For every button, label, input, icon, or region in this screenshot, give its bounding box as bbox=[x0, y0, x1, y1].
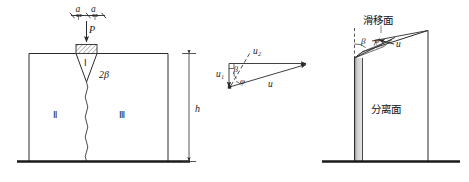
label-velocity-u-right: u bbox=[396, 39, 401, 49]
label-region-III: Ⅲ bbox=[119, 110, 125, 120]
label-u1: u₁ bbox=[216, 69, 224, 79]
dimension-h-group bbox=[182, 54, 196, 162]
figure-root: a a P Ⅰ 2β Ⅱ Ⅲ h u₁ u₂ u β φ 滑移面 分离面 β φ… bbox=[0, 0, 469, 182]
label-beta-right: β bbox=[360, 36, 366, 46]
label-height-h: h bbox=[195, 103, 200, 114]
label-beta-middle: β bbox=[233, 64, 239, 74]
left-panel-group bbox=[17, 13, 196, 162]
label-slip-surface: 滑移面 bbox=[363, 14, 393, 26]
label-phi-right: φ bbox=[375, 35, 380, 45]
label-u2: u₂ bbox=[253, 46, 262, 56]
separation-band bbox=[355, 58, 363, 162]
label-a-right: a bbox=[91, 4, 96, 14]
label-separation-surface: 分离面 bbox=[371, 103, 401, 115]
label-phi-middle: φ bbox=[240, 76, 245, 86]
label-u: u bbox=[268, 79, 273, 89]
label-load-P: P bbox=[88, 24, 95, 35]
punch-block bbox=[76, 45, 97, 54]
label-angle-2beta: 2β bbox=[99, 69, 109, 80]
crack-line bbox=[85, 82, 88, 161]
label-region-I: Ⅰ bbox=[84, 58, 87, 68]
technical-diagram-svg: a a P Ⅰ 2β Ⅱ Ⅲ h u₁ u₂ u β φ 滑移面 分离面 β φ… bbox=[0, 0, 469, 182]
label-region-II: Ⅱ bbox=[53, 110, 57, 120]
right-panel-group bbox=[322, 26, 460, 163]
label-a-left: a bbox=[76, 4, 81, 14]
